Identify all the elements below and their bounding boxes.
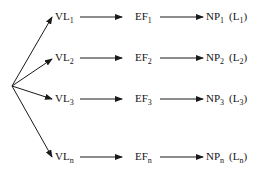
ef-label: EF (135, 92, 148, 104)
l-close-paren: ) (243, 92, 247, 104)
vl-subscript: n (70, 156, 74, 165)
np-label: NP (206, 10, 220, 22)
np-subscript: 3 (220, 98, 224, 107)
np-node-2: NP2(L2) (206, 51, 247, 63)
np-node-1: NP1(L1) (206, 10, 247, 22)
np-label: NP (206, 150, 220, 162)
np-label: NP (206, 51, 220, 63)
vl-node-1: VL1 (55, 10, 74, 22)
ef-label: EF (135, 150, 148, 162)
vl-node-3: VL3 (55, 92, 74, 104)
vl-node-n: VLn (55, 150, 74, 162)
ef-label: EF (135, 51, 148, 63)
l-close-paren: ) (243, 150, 247, 162)
ef-node-2: EF2 (135, 51, 152, 63)
ef-subscript: n (148, 156, 152, 165)
diagram-arrows (0, 0, 264, 173)
np-subscript: 1 (220, 16, 224, 25)
vl-label: VL (55, 10, 70, 22)
vl-label: VL (55, 92, 70, 104)
vl-subscript: 1 (70, 16, 74, 25)
np-subscript: n (220, 156, 224, 165)
np-label: NP (206, 92, 220, 104)
np-node-n: NPn(Ln) (206, 150, 247, 162)
np-node-3: NP3(L3) (206, 92, 247, 104)
ef-node-3: EF3 (135, 92, 152, 104)
ef-label: EF (135, 10, 148, 22)
vl-label: VL (55, 51, 70, 63)
ef-subscript: 2 (148, 57, 152, 66)
ef-subscript: 1 (148, 16, 152, 25)
ef-subscript: 3 (148, 98, 152, 107)
fan-arrow-2 (12, 59, 52, 86)
l-close-paren: ) (243, 51, 247, 63)
ef-node-1: EF1 (135, 10, 152, 22)
vl-subscript: 3 (70, 98, 74, 107)
vl-subscript: 2 (70, 57, 74, 66)
fan-arrow-1 (12, 17, 52, 86)
ef-node-n: EFn (135, 150, 152, 162)
l-close-paren: ) (243, 10, 247, 22)
vl-label: VL (55, 150, 70, 162)
vl-node-2: VL2 (55, 51, 74, 63)
np-subscript: 2 (220, 57, 224, 66)
